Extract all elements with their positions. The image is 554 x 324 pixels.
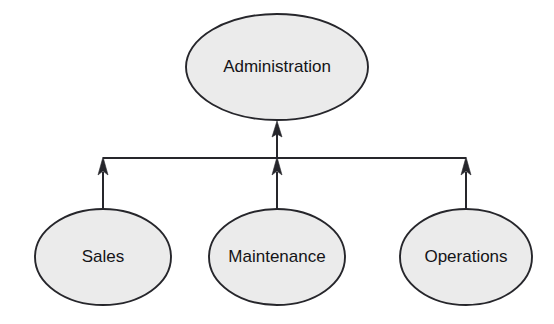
node-sales[interactable]: Sales	[35, 209, 171, 305]
node-label-maintenance: Maintenance	[228, 247, 325, 266]
node-label-sales: Sales	[82, 247, 125, 266]
connector-sales-to-bus	[98, 157, 108, 212]
node-label-operations: Operations	[424, 247, 507, 266]
connector-bus-to-administration	[272, 121, 282, 158]
node-administration[interactable]: Administration	[186, 14, 368, 120]
hierarchy-diagram: Administration Sales Maintenance Operati…	[0, 0, 554, 324]
node-layer: Administration Sales Maintenance Operati…	[35, 14, 532, 305]
connector-maintenance-to-bus	[272, 157, 282, 212]
node-maintenance[interactable]: Maintenance	[209, 209, 345, 305]
diagram-canvas: Administration Sales Maintenance Operati…	[0, 0, 554, 324]
node-operations[interactable]: Operations	[400, 209, 532, 305]
connector-operations-to-bus	[461, 157, 471, 212]
node-label-administration: Administration	[223, 57, 331, 76]
connector-layer	[98, 121, 471, 212]
